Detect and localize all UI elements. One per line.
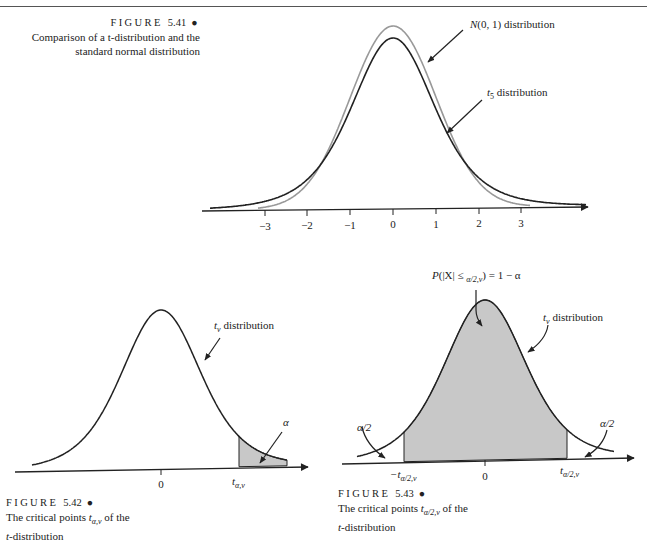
alpha-tail-shaded-area	[239, 436, 287, 466]
tick-label: 0	[482, 470, 488, 482]
tick-label: −3	[259, 220, 271, 232]
central-shaded-area	[404, 300, 567, 462]
figure-5-43-caption-line-1: The critical points tα/2,ν of the	[338, 501, 558, 520]
tick-label: −1	[344, 219, 356, 231]
tick-label: 0	[158, 478, 164, 490]
t5-label-arrow	[447, 100, 482, 133]
figure-5-41-plot: −3 −2 −1 0 1 2 3 N(0, 1) distribution t5…	[0, 0, 647, 546]
normal-label-arrow	[428, 30, 463, 62]
figure-5-43-caption: FIGURE 5.43 ● The critical points tα/2,ν…	[338, 487, 558, 534]
t5-distribution-label: t5 distribution	[487, 86, 548, 101]
t-nu-distribution-label: tν distribution	[543, 311, 604, 326]
t-nu-distribution-label: tν distribution	[214, 319, 275, 334]
axis-tick-labels: −3 −2 −1 0 1 2 3	[259, 217, 524, 232]
right-critical-point-label: tα/2,ν	[560, 464, 579, 479]
figure-5-43-caption-line-2: t-distribution	[338, 520, 558, 534]
tick-label: 1	[433, 218, 439, 230]
normal-distribution-curve	[258, 26, 530, 208]
normal-distribution-label: N(0, 1) distribution	[469, 18, 555, 31]
probability-label: P(|X| ≤ α/2,ν) = 1 − α	[431, 269, 521, 284]
tick-label: −2	[301, 219, 313, 231]
figure-5-42-caption-head: FIGURE 5.42 ●	[6, 496, 206, 510]
figure-5-43-caption-head: FIGURE 5.43 ●	[338, 487, 558, 501]
bullet-icon: ●	[419, 488, 428, 499]
tick-label: 0	[390, 218, 396, 230]
right-tail-label: α/2	[600, 417, 615, 429]
t-nu-label-arrow	[528, 325, 548, 352]
figure-5-42-caption-line-1: The critical points tα,ν of the	[6, 510, 206, 529]
t-nu-distribution-curve	[32, 310, 287, 465]
bullet-icon: ●	[87, 497, 96, 508]
alpha-label: α	[283, 416, 289, 428]
figure-5-42-caption: FIGURE 5.42 ● The critical points tα,ν o…	[6, 496, 206, 543]
left-tail-label: α/2	[357, 421, 372, 433]
t-nu-label-arrow	[205, 338, 220, 360]
tick-label: 2	[476, 217, 482, 229]
left-critical-point-label: −tα/2,ν	[390, 468, 417, 483]
t5-distribution-curve	[210, 38, 586, 208]
critical-point-label: tα,ν	[232, 475, 245, 490]
tick-label: 3	[518, 217, 524, 229]
figure-5-42-caption-line-2: t-distribution	[6, 529, 206, 543]
